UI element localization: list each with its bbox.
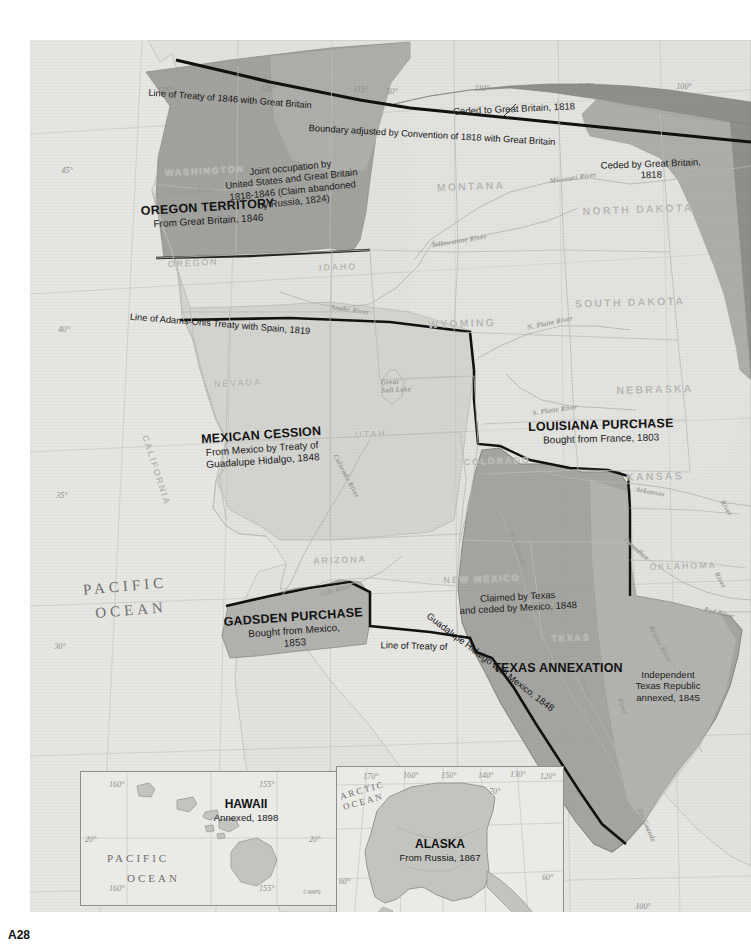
hawaii-graticule-label-4: 160° (109, 884, 125, 894)
hawaii-title: HAWAII (225, 797, 268, 811)
state-label-texas: TEXAS (551, 632, 590, 644)
graticule-label-115-top: 115° (354, 85, 369, 95)
state-label-arizona: ARIZONA (313, 554, 367, 566)
graticule-label-40-left: 40° (58, 325, 69, 335)
alaska-graticule-label-1: 160° (403, 771, 419, 781)
alaska-title: ALASKA (415, 837, 465, 851)
graticule-label-35-left: 35° (56, 491, 67, 501)
graticule-label-30-left: 30° (54, 642, 65, 652)
alaska-graticule-label-8: 60° (542, 873, 553, 883)
map-page: 125°120°115°50°110°105°100°45°40°35°30° … (0, 0, 751, 951)
graticule-label-110-top: 110° (475, 84, 490, 94)
hawaii-graticule-label-2: 20° (85, 835, 96, 845)
alaska-graticule-label-6: 70° (489, 787, 500, 797)
alaska-subtitle: From Russia, 1867 (399, 852, 480, 863)
state-label-montana: MONTANA (437, 179, 506, 194)
river-label-great-salt-lake: GreatSalt Lake (381, 377, 412, 396)
boundary-label-treaty-guadalupe-hidalgo-line: Line of Treaty of (381, 640, 448, 653)
main-map: 125°120°115°50°110°105°100°45°40°35°30° … (30, 40, 751, 912)
note-ceded-by-great-britain: Ceded by Great Britain,1818 (601, 156, 702, 182)
alaska-graticule-label-5: 120° (540, 772, 556, 782)
state-label-idaho: IDAHO (319, 261, 357, 273)
hawaii-graticule-label-5: 155° (259, 884, 275, 894)
territory-label-louisiana-purchase: LOUISIANA PURCHASEBought from France, 18… (528, 416, 674, 446)
alaska-graticule-label-0: 170° (363, 772, 379, 782)
hawaii-pacific-label: PACIFIC (107, 850, 169, 868)
page-number: A28 (8, 928, 30, 942)
graticule-label-50-top: 50° (386, 87, 397, 97)
hawaii-ocean-label: OCEAN (127, 870, 180, 888)
graticule-label-120-top: 120° (260, 84, 276, 94)
alaska-graticule-label-4: 130° (510, 770, 526, 780)
graticule-label-100-top: 100° (676, 82, 692, 92)
alaska-graticule-label-7: 60° (339, 877, 350, 887)
alaska-graticule-label-3: 140° (478, 771, 494, 781)
hawaii-graticule-label-0: 160° (109, 780, 125, 790)
territory-label-texas-annexation: TEXAS ANNEXATION (493, 661, 623, 676)
territory-title: TEXAS ANNEXATION (493, 661, 623, 676)
hawaii-graticule-label-1: 155° (259, 780, 275, 790)
state-label-wyoming: WYOMING (428, 316, 496, 331)
graticule-label-100-bottom: 100° (635, 902, 651, 912)
graticule-label-45-left: 45° (61, 166, 72, 176)
hawaii-subtitle: Annexed, 1898 (214, 812, 279, 823)
state-label-nebraska: NEBRASKA (616, 382, 693, 396)
state-label-kansas: KANSAS (626, 469, 684, 483)
alaska-inset-map[interactable]: ALASKA From Russia, 1867 ARCTIC OCEAN PA… (336, 766, 564, 912)
graticule-label-105-top: 105° (578, 82, 594, 92)
hawaii-graticule-label-3: 20° (309, 835, 320, 845)
state-label-oklahoma: OKLAHOMA (649, 560, 717, 572)
state-label-utah: UTAH (355, 428, 387, 440)
hawaii-inset-map[interactable]: HAWAII Annexed, 1898 PACIFIC OCEAN 160°1… (80, 771, 338, 906)
alaska-graticule-label-2: 150° (441, 771, 457, 781)
hawaii-copyright: © MAPS (303, 890, 321, 895)
note-independent-texas-republic: IndependentTexas Republicannexed, 1845 (635, 669, 700, 703)
